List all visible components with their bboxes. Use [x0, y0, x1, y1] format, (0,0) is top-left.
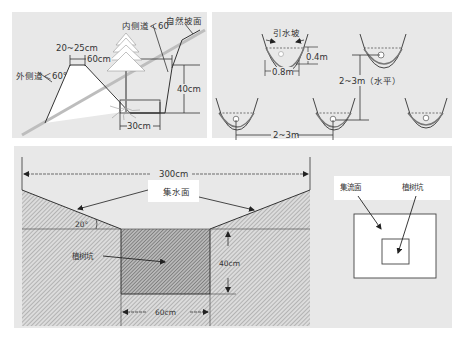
pit-depth-label: 40cm [219, 259, 240, 268]
bottom-width-label: 30cm [127, 121, 151, 131]
diversion-slope-label: 引水坡 [273, 28, 300, 38]
slope-angle-label: 20° [75, 220, 89, 229]
depth-label: 40cm [177, 84, 201, 94]
planting-pit-section [121, 229, 210, 294]
planting-pit-outline [382, 239, 409, 264]
diagram-canvas: 内侧道＜60° 自然坡面 20~25cm 60cm 外侧道＜60° 40cm 3… [0, 0, 464, 340]
vertical-spacing-label: 2~3m（水平） [339, 76, 401, 86]
pit-width-label: 0.8m [272, 67, 294, 77]
pit-width-label: 60cm [155, 308, 176, 317]
planting-pit-label: 植树坑 [72, 251, 94, 261]
natural-slope-label: 自然坡面 [166, 16, 202, 26]
plan-catchment-label: 集流面 [340, 182, 362, 192]
total-width-label: 300cm [159, 169, 188, 179]
panel-slope-pit: 内侧道＜60° 自然坡面 20~25cm 60cm 外侧道＜60° 40cm 3… [12, 12, 207, 138]
catchment-surface-label: 集水面 [163, 187, 190, 197]
horizontal-spacing-label: 2~3m [273, 130, 299, 140]
plan-planting-pit-label: 植树坑 [402, 182, 424, 192]
rim-width-label: 60cm [87, 54, 111, 64]
panel-fish-scale-pits: 引水坡 0.4m 0.8m 2~3m（水平） [212, 12, 452, 140]
pit-depth-label: 0.4m [306, 52, 328, 62]
top-width-label: 20~25cm [56, 43, 98, 53]
outer-slope-label: 外侧道＜60° [16, 71, 67, 81]
